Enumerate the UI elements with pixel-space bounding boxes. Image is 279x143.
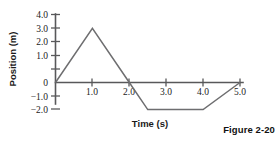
y-tick-label-0: 0 bbox=[43, 78, 48, 88]
y-tick-label-1: 1.0 bbox=[36, 51, 48, 61]
figure-container: 4.0 3.0 2.0 1.0 0 −1.0 −2.0 1.0 2.0 3.0 … bbox=[0, 0, 279, 143]
x-tick-label-4: 4.0 bbox=[197, 87, 209, 97]
x-tick-label-3: 3.0 bbox=[160, 87, 172, 97]
y-tick-label-3: 3.0 bbox=[36, 24, 48, 34]
position-vs-time-chart: 4.0 3.0 2.0 1.0 0 −1.0 −2.0 1.0 2.0 3.0 … bbox=[0, 0, 279, 143]
x-tick-label-5: 5.0 bbox=[234, 87, 246, 97]
y-tick-label-2: 2.0 bbox=[36, 37, 48, 47]
y-tick-label-neg2: −2.0 bbox=[31, 105, 48, 115]
y-tick-label-neg1: −1.0 bbox=[31, 92, 48, 102]
position-data-line bbox=[56, 28, 241, 109]
x-tick-label-1: 1.0 bbox=[86, 87, 98, 97]
y-tick-label-4: 4.0 bbox=[36, 10, 48, 20]
y-axis-title: Position (m) bbox=[7, 32, 18, 87]
x-axis-title: Time (s) bbox=[132, 118, 168, 129]
figure-caption: Figure 2-20 bbox=[223, 124, 275, 135]
